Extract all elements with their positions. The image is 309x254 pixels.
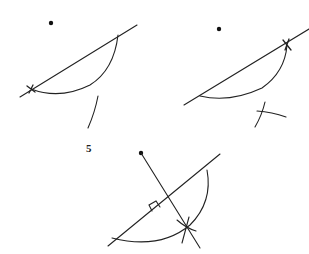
given-point (217, 27, 221, 31)
given-point (49, 21, 53, 25)
partial-arc (88, 96, 98, 128)
figure-step-a (20, 21, 137, 128)
given-line (108, 154, 220, 246)
construction-diagram (0, 0, 309, 254)
figure-step-5 (108, 151, 220, 248)
compass-arc (31, 35, 118, 94)
figure-step-b (184, 27, 309, 127)
given-line (20, 25, 137, 97)
cross-arc-1 (255, 102, 265, 127)
perpendicular-line (141, 153, 200, 248)
right-angle-marker (149, 201, 160, 211)
compass-arc (200, 45, 287, 98)
